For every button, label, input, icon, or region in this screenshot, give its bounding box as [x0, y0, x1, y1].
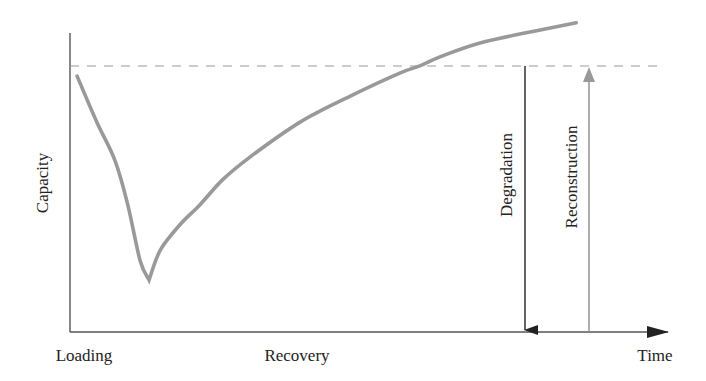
phase-label-recovery: Recovery	[264, 346, 330, 365]
reconstruction-label: Reconstruction	[562, 125, 581, 228]
y-axis-label: Capacity	[33, 152, 52, 213]
phase-label-loading: Loading	[56, 346, 113, 365]
reconstruction-arrow	[583, 67, 595, 332]
degradation-label: Degradation	[497, 132, 516, 217]
capacity-recovery-diagram: Capacity Degradation Reconstruction Load…	[0, 0, 706, 381]
x-axis-label: Time	[637, 346, 672, 365]
